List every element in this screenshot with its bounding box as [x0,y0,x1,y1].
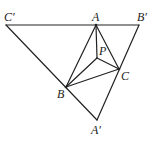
label-p: P [98,44,107,58]
point-c-dot [118,68,121,71]
label-a: A [91,10,100,24]
point-b-dot [65,86,68,89]
segment-c-prime-a-prime [6,25,97,120]
label-b-prime: B′ [137,10,147,24]
label-a-prime: A′ [90,123,101,137]
segment-a-b [66,25,96,87]
label-c-prime: C′ [4,10,15,24]
inner-triangle [66,25,119,87]
point-a-dot [95,24,98,27]
label-c: C [121,69,130,83]
labels: C′ A B′ P C B A′ [4,10,147,137]
geometry-diagram: C′ A B′ P C B A′ [0,0,151,141]
segment-a-p [96,25,97,58]
label-b: B [57,87,65,101]
segment-b-p [66,58,97,87]
